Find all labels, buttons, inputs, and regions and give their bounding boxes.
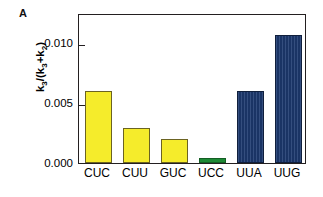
bar <box>123 128 150 163</box>
bar <box>161 139 188 163</box>
y-axis-tick-label: 0.005 <box>29 98 73 109</box>
bar <box>199 158 226 163</box>
y-axis-tick-labels: 0.0000.0050.010 <box>26 0 73 197</box>
y-axis-tick-label: 0.010 <box>29 38 73 49</box>
bar <box>85 91 112 163</box>
x-axis-tick-label: GUC <box>154 166 192 180</box>
bar-series <box>79 15 305 163</box>
x-axis-tick-label: UUG <box>268 166 306 180</box>
bar <box>237 91 264 163</box>
x-axis-tick-labels: CUCCUUGUCUCCUUAUUG <box>78 166 306 188</box>
x-axis-tick-label: CUU <box>116 166 154 180</box>
plot-area <box>78 14 306 164</box>
y-axis-tick-label: 0.000 <box>29 158 73 169</box>
x-axis-tick-label: UCC <box>192 166 230 180</box>
x-axis-tick-label: UUA <box>230 166 268 180</box>
x-axis-tick-label: CUC <box>78 166 116 180</box>
figure-panel-a: A k3/(k3+k2) 0.0000.0050.010 CUCCUUGUCUC… <box>0 0 323 197</box>
bar <box>275 35 302 163</box>
